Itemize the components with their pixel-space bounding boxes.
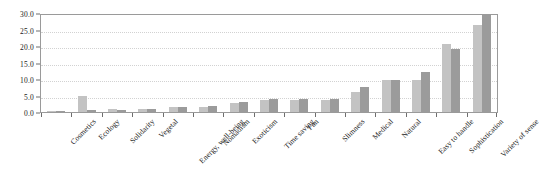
bar[interactable] <box>330 99 339 112</box>
bar-group[interactable] <box>132 15 162 112</box>
x-axis-category-label: Exoticism <box>250 117 279 146</box>
x-axis-labels: CosmeticsEcologySolidarityVegetalEnergy,… <box>41 117 497 187</box>
bar[interactable] <box>473 25 482 112</box>
bar[interactable] <box>78 96 87 113</box>
bar[interactable] <box>482 15 491 112</box>
bar[interactable] <box>178 107 187 112</box>
y-axis-tick-label: 10.0 <box>20 76 34 85</box>
bar[interactable] <box>421 72 430 112</box>
x-axis-category-label: Ecology <box>97 117 122 142</box>
bar[interactable] <box>299 99 308 112</box>
bar[interactable] <box>269 99 278 112</box>
x-axis-category-label: Vegetal <box>157 117 180 140</box>
bar[interactable] <box>208 106 217 112</box>
bar[interactable] <box>108 109 117 112</box>
y-axis-tick-label: 5.0 <box>24 92 34 101</box>
bar-group[interactable] <box>41 15 71 112</box>
bar[interactable] <box>117 110 126 112</box>
bar-group[interactable] <box>223 15 253 112</box>
bar[interactable] <box>169 107 178 112</box>
bar-group[interactable] <box>284 15 314 112</box>
y-axis: 0.05.010.015.020.025.030.0 <box>0 0 40 113</box>
x-axis-category-label: Solidarity <box>128 117 156 145</box>
bar[interactable] <box>321 100 330 112</box>
x-axis-category-label: Cosmetics <box>68 117 97 146</box>
bar-group[interactable] <box>345 15 375 112</box>
bar-group[interactable] <box>163 15 193 112</box>
bar[interactable] <box>87 110 96 112</box>
x-axis-category-label: Medical <box>370 117 394 141</box>
bar-group[interactable] <box>436 15 466 112</box>
bar[interactable] <box>382 80 391 112</box>
bar[interactable] <box>239 102 248 112</box>
bar[interactable] <box>442 44 451 112</box>
bar-group[interactable] <box>193 15 223 112</box>
bar-group[interactable] <box>406 15 436 112</box>
bar[interactable] <box>360 87 369 112</box>
bar-group[interactable] <box>254 15 284 112</box>
bar-group[interactable] <box>315 15 345 112</box>
y-axis-tick-label: 15.0 <box>20 59 34 68</box>
bar-group[interactable] <box>467 15 497 112</box>
bar[interactable] <box>147 109 156 112</box>
y-axis-tick-label: 30.0 <box>20 10 34 19</box>
bar[interactable] <box>290 100 299 112</box>
y-axis-tick-label: 25.0 <box>20 26 34 35</box>
bar[interactable] <box>391 80 400 112</box>
bar-group[interactable] <box>71 15 101 112</box>
x-axis-category-label: Natural <box>400 117 423 140</box>
x-axis-category-label: Slimness <box>340 117 366 143</box>
y-axis-tick-label: 0.0 <box>24 109 34 118</box>
bar-group[interactable] <box>102 15 132 112</box>
bar[interactable] <box>47 111 56 112</box>
bar[interactable] <box>199 107 208 112</box>
bar[interactable] <box>412 80 421 112</box>
bar-group[interactable] <box>375 15 405 112</box>
y-axis-tick-label: 20.0 <box>20 43 34 52</box>
bar[interactable] <box>351 92 360 112</box>
bar[interactable] <box>230 103 239 112</box>
bar[interactable] <box>138 109 147 112</box>
bar[interactable] <box>260 100 269 112</box>
bar[interactable] <box>451 49 460 112</box>
bar[interactable] <box>56 111 65 112</box>
bar-series-container <box>41 15 497 112</box>
